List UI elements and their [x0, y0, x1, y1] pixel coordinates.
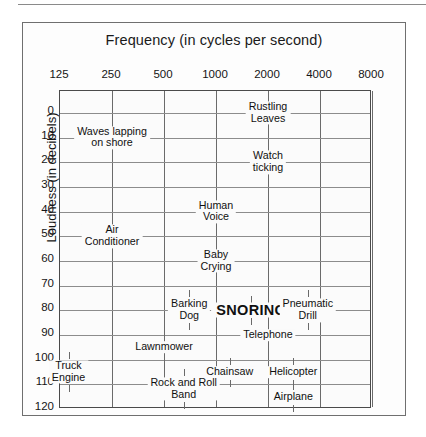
gridline-vertical: [372, 91, 373, 407]
x-tick-label: 8000: [341, 68, 401, 80]
data-point-label: Lawnmower: [132, 342, 196, 354]
data-point-label: Watchticking: [250, 151, 286, 174]
data-point-label: HumanVoice: [196, 200, 236, 223]
data-point-tick: [216, 241, 217, 248]
data-point-tick: [184, 402, 185, 409]
data-point-tick: [268, 142, 269, 149]
y-tick-label: 90: [14, 326, 54, 338]
data-point-label-line: Lawnmower: [135, 342, 193, 354]
data-point-label-line: Pneumatic: [283, 299, 334, 311]
data-point-tick: [251, 318, 252, 325]
y-tick-label: 60: [14, 252, 54, 264]
data-point-label: BabyCrying: [198, 249, 235, 272]
page-top-rule: [18, 4, 426, 5]
data-point-tick: [112, 151, 113, 158]
data-point-tick: [268, 343, 269, 350]
data-point-label: BarkingDog: [168, 299, 210, 322]
data-point-label-line: Crying: [201, 261, 232, 273]
data-point-tick: [164, 355, 165, 362]
y-tick-label: 10: [14, 129, 54, 141]
y-tick-label: 120: [14, 400, 54, 412]
y-tick-label: 80: [14, 301, 54, 313]
data-point-tick: [308, 290, 309, 297]
data-point-label: Telephone: [240, 329, 295, 341]
data-point-tick: [69, 352, 70, 359]
data-point-label: RustlingLeaves: [246, 101, 291, 124]
data-point-tick: [216, 225, 217, 232]
chart-title: Frequency (in cycles per second): [22, 32, 406, 48]
data-point-tick: [112, 118, 113, 125]
data-point-tick: [216, 192, 217, 199]
x-tick-label: 250: [81, 68, 141, 80]
data-point-label-line: Barking: [171, 299, 207, 311]
data-point-tick: [268, 321, 269, 328]
y-tick-label: 0: [14, 104, 54, 116]
data-point-tick: [293, 358, 294, 365]
data-point-label: Waves lappingon shore: [74, 126, 150, 149]
data-point-tick: [216, 274, 217, 281]
data-point-label-line: Leaves: [249, 113, 288, 125]
data-point-tick: [268, 126, 269, 133]
data-point-label-line: Air: [85, 225, 140, 237]
data-point-tick: [184, 369, 185, 376]
data-point-tick: [189, 323, 190, 330]
data-point-label-line: Rock and Roll: [150, 378, 217, 390]
data-point-label-line: Baby: [201, 249, 232, 261]
data-point-label-line: Airplane: [274, 391, 313, 403]
data-point-label-line: Voice: [199, 212, 233, 224]
data-point-label-line: Waves lapping: [77, 126, 147, 138]
gridline-horizontal: [60, 286, 370, 287]
y-tick-label: 30: [14, 178, 54, 190]
data-point-tick: [112, 216, 113, 223]
data-point-label-line: Human: [199, 200, 233, 212]
data-point-tick: [268, 175, 269, 182]
gridline-horizontal: [60, 162, 370, 163]
data-point-label-line: Dog: [171, 310, 207, 322]
data-point-tick: [189, 290, 190, 297]
data-point-label-line: SNORING: [216, 303, 286, 318]
data-point-label-line: Drill: [283, 310, 334, 322]
data-point-label-line: Watch: [253, 151, 283, 163]
y-tick-label: 70: [14, 277, 54, 289]
data-point-label: Airplane: [271, 391, 316, 403]
data-point-tick: [268, 93, 269, 100]
data-point-label: TruckEngine: [49, 360, 88, 383]
data-point-label-line: Truck: [52, 360, 85, 372]
data-point-tick: [308, 323, 309, 330]
data-point-label-line: Band: [150, 389, 217, 401]
data-point-label-line: Rustling: [249, 101, 288, 113]
data-point-label: PneumaticDrill: [280, 299, 337, 322]
y-tick-label: 40: [14, 203, 54, 215]
data-point-tick: [69, 385, 70, 392]
data-point-label-line: on shore: [77, 138, 147, 150]
data-point-tick: [164, 333, 165, 340]
y-tick-label: 50: [14, 227, 54, 239]
x-tick-label: 4000: [289, 68, 349, 80]
data-point-tick: [112, 249, 113, 256]
data-point-label-line: Engine: [52, 372, 85, 384]
plot-area: RustlingLeavesWaves lappingon shoreWatch…: [59, 90, 371, 408]
y-tick-label: 20: [14, 153, 54, 165]
x-tick-label: 1000: [185, 68, 245, 80]
x-tick-label: 500: [133, 68, 193, 80]
x-tick-label: 2000: [237, 68, 297, 80]
data-point-label: Helicopter: [266, 366, 320, 378]
data-point-label-line: ticking: [253, 162, 283, 174]
gridline-horizontal: [60, 113, 370, 114]
gridline-horizontal: [60, 335, 370, 336]
data-point-tick: [293, 405, 294, 412]
data-point-label-line: Helicopter: [269, 366, 317, 378]
data-point-label-line: Telephone: [243, 329, 292, 341]
x-tick-label: 125: [29, 68, 89, 80]
data-point-tick: [230, 380, 231, 387]
gridline-horizontal: [60, 360, 370, 361]
data-point-label-line: Conditioner: [85, 236, 140, 248]
data-point-tick: [230, 358, 231, 365]
data-point-tick: [293, 383, 294, 390]
data-point-label: Rock and RollBand: [147, 378, 220, 401]
data-point-label: AirConditioner: [82, 225, 143, 248]
gridline-horizontal: [60, 187, 370, 188]
